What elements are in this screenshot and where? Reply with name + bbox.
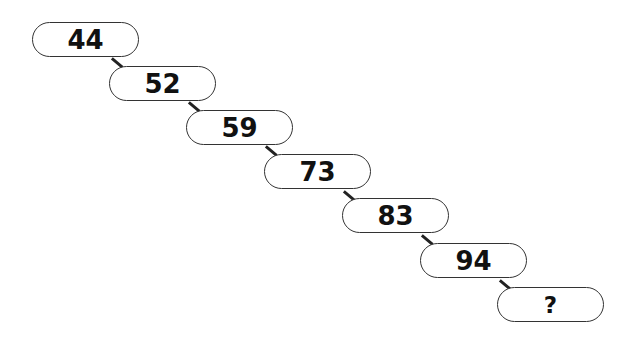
sequence-value: 59 bbox=[221, 113, 257, 143]
sequence-item-unknown: ? bbox=[497, 287, 604, 322]
sequence-value: 44 bbox=[67, 25, 103, 55]
sequence-value: 83 bbox=[377, 201, 413, 231]
sequence-item-6: 94 bbox=[420, 243, 527, 278]
sequence-value: 52 bbox=[144, 69, 180, 99]
sequence-item-4: 73 bbox=[264, 154, 371, 189]
sequence-item-1: 44 bbox=[32, 22, 139, 57]
sequence-value: 94 bbox=[455, 246, 491, 276]
sequence-item-2: 52 bbox=[109, 66, 216, 101]
sequence-item-5: 83 bbox=[342, 198, 449, 233]
sequence-item-3: 59 bbox=[186, 110, 293, 145]
sequence-value: 73 bbox=[299, 157, 335, 187]
question-mark: ? bbox=[544, 292, 557, 318]
